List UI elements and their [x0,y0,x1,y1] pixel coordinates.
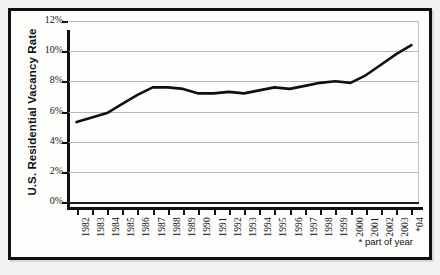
x-axis-tick-label: 2000 [355,217,365,237]
x-axis-tick [153,210,155,215]
x-axis-tick [92,210,94,215]
x-axis-tick [214,210,216,215]
x-axis-tick-label: 1992 [233,217,243,237]
y-axis-tick-labels: 0%2%4%6%8%10%12% [11,11,63,257]
x-axis-tick [122,210,124,215]
y-axis-tick-label: 12% [17,14,63,25]
x-axis-tick [168,210,170,215]
x-axis-tick [396,210,398,215]
x-axis-tick [320,210,322,215]
plot-area [69,21,419,202]
x-axis-tick-label: 1982 [81,217,91,237]
x-axis-tick [137,210,139,215]
x-axis-tick [351,210,353,215]
x-axis-tick [411,210,413,215]
y-axis-tick [62,51,68,53]
x-axis-tick-label: 1989 [187,217,197,237]
x-axis-tick-label: 1984 [111,217,121,237]
x-axis-tick-label: 2003 [400,217,410,237]
y-axis-tick [62,142,68,144]
y-axis-tick-label: 6% [17,105,63,116]
x-axis-tick-label: *04 [415,217,425,232]
y-axis-tick [62,112,68,114]
gridline [69,202,419,204]
y-axis-tick [62,172,68,174]
y-axis-tick [62,202,68,204]
chart-figure: U.S. Residential Vacancy Rate 0%2%4%6%8%… [0,0,440,275]
x-axis-tick-label: 1995 [278,217,288,237]
y-axis-tick-label: 8% [17,74,63,85]
footnote: * part of year [359,236,413,247]
x-axis-tick [107,210,109,215]
x-axis-tick-label: 1983 [96,217,106,237]
x-axis-tick-label: 1994 [263,217,273,237]
x-axis-tick-label: 2001 [370,217,380,237]
y-axis-tick [62,81,68,83]
vacancy-rate-line [77,45,412,122]
y-axis-tick-label: 0% [17,195,63,206]
x-axis-tick [259,210,261,215]
x-axis-tick-label: 1991 [218,217,228,237]
x-axis-tick [366,210,368,215]
x-axis-tick [305,210,307,215]
x-axis-tick-label: 1993 [248,217,258,237]
x-axis-tick-label: 1986 [141,217,151,237]
y-axis-tick [62,21,68,23]
x-axis-tick-label: 1988 [172,217,182,237]
x-axis-tick [183,210,185,215]
y-axis-tick-label: 4% [17,135,63,146]
x-axis-tick [229,210,231,215]
x-axis-tick-label: 1987 [157,217,167,237]
x-axis-tick [77,210,79,215]
x-axis-tick-label: 1997 [309,217,319,237]
x-axis-tick-label: 1999 [339,217,349,237]
x-axis-tick-label: 1990 [202,217,212,237]
x-axis-tick [290,210,292,215]
x-axis-tick [198,210,200,215]
x-axis-tick-label: 1998 [324,217,334,237]
y-axis-tick-label: 10% [17,44,63,55]
x-axis-tick-label: 1996 [294,217,304,237]
y-axis-tick-label: 2% [17,165,63,176]
x-axis-tick [335,210,337,215]
chart-frame: U.S. Residential Vacancy Rate 0%2%4%6%8%… [8,8,432,260]
x-axis-tick [381,210,383,215]
x-axis-tick-label: 2002 [385,217,395,237]
chart-plot-container: U.S. Residential Vacancy Rate 0%2%4%6%8%… [11,11,429,257]
x-axis-tick [244,210,246,215]
data-line-svg [69,21,419,202]
x-axis-tick-label: 1985 [126,217,136,237]
x-axis-tick [274,210,276,215]
